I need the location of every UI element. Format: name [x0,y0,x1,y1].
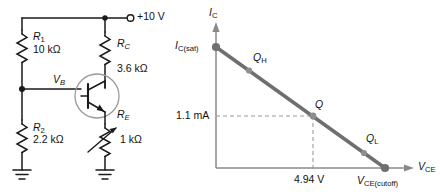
resistor-RC [100,32,110,88]
junction-dot-supply [102,15,107,20]
base-node-label: VB [53,74,65,86]
resistor-RC-name: R [117,37,125,49]
point-qh [246,67,252,73]
vce-cutoff-label-sub: CE(cutoff) [364,179,398,188]
point-q [310,113,317,120]
dc-load-line [216,47,385,168]
point-label-qh: QH [253,52,267,64]
resistor-RE-value: 1 kΩ [120,134,142,146]
resistor-RC-sub: C [125,42,130,51]
figure-svg [0,0,440,194]
point-ic-sat [212,43,220,51]
y-axis-label-sub: C [212,11,217,20]
q-point-guides [216,116,313,168]
x-axis-arrow-icon [404,164,414,171]
point-label-qh-sub: H [261,56,266,65]
load-line-plot [212,22,414,172]
figure-container: +10 V R1 10 kΩ RC 3.6 kΩ VB R2 2.2 kΩ RE… [0,0,440,194]
y-axis-label: IC [209,7,217,19]
x-axis-label: VCE [418,161,436,173]
resistor-RC-label: RC [117,38,130,50]
point-label-q-text: Q [315,98,323,110]
point-label-q: Q [315,99,323,111]
point-label-ql-sub: L [374,137,378,146]
circuit-schematic [13,15,134,179]
ic-sat-label: IC(sat) [175,40,199,52]
resistor-RE-sub: E [125,113,130,122]
base-node-name: V [53,73,60,85]
supply-terminal-circle [127,15,134,22]
ground-symbol-left [13,170,31,179]
base-node-sub: B [60,78,65,87]
supply-voltage-label: +10 V [137,11,165,23]
point-label-ql-text: Q [366,132,374,144]
y-axis-arrow-icon [212,22,219,32]
resistor-R1-value: 10 kΩ [33,44,61,56]
point-label-ql: QL [366,133,378,145]
y-tick-label-1p1mA: 1.1 mA [176,110,209,122]
variable-resistor-arrow-icon [88,127,117,152]
resistor-RC-value: 3.6 kΩ [117,63,148,75]
ground-symbol-right [96,170,114,179]
resistor-RE-name: R [117,108,125,120]
emitter-arrow-icon [97,105,105,112]
resistor-R2-label: R2 [33,122,45,134]
resistor-RE-label: RE [117,109,130,121]
npn-transistor-symbol [75,74,119,118]
resistor-R1 [17,30,27,89]
x-tick-label-4p94V: 4.94 V [294,174,324,186]
ic-sat-label-sub: C(sat) [178,44,199,53]
point-label-qh-text: Q [253,51,261,63]
resistor-R2 [17,120,27,170]
x-axis-label-text: V [418,160,425,172]
resistor-R2-value: 2.2 kΩ [33,134,64,146]
vce-cutoff-label-text: V [357,174,364,186]
resistor-RE [100,124,110,170]
point-ql [361,150,367,156]
resistor-R1-name: R [33,30,41,42]
x-axis-label-sub: CE [425,165,436,174]
point-vce-cutoff [381,164,389,172]
vce-cutoff-label: VCE(cutoff) [357,175,398,187]
resistor-R2-name: R [33,121,41,133]
resistor-R1-label: R1 [33,31,45,43]
